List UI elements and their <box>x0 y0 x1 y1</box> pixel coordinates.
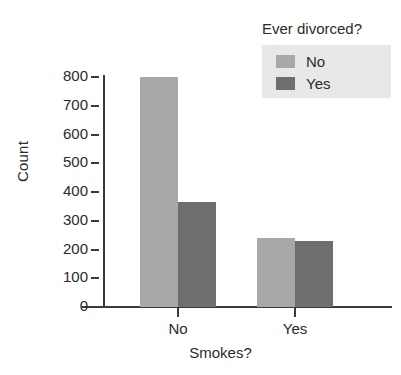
x-axis-title: Smokes? <box>0 344 401 361</box>
y-axis-tick-label: 300 <box>63 211 88 228</box>
y-axis-tick-mark <box>91 306 99 308</box>
y-axis-tick-label: 700 <box>63 96 88 113</box>
legend-label: Yes <box>306 76 330 91</box>
y-axis-tick-label: 800 <box>63 67 88 84</box>
x-axis-tick-label: No <box>138 320 218 337</box>
bar[interactable] <box>140 77 178 307</box>
legend-swatch <box>276 77 295 90</box>
y-axis-tick-label: 100 <box>63 268 88 285</box>
y-axis-tick-mark <box>91 191 99 193</box>
x-axis-tick-label: Yes <box>255 320 335 337</box>
bar[interactable] <box>178 202 216 307</box>
y-axis-tick-mark <box>91 249 99 251</box>
legend-title: Ever divorced? <box>262 20 362 37</box>
legend-box: NoYes <box>262 45 391 98</box>
legend-swatch <box>276 55 295 68</box>
y-axis-tick-mark <box>91 220 99 222</box>
y-axis-tick-mark <box>91 277 99 279</box>
bar[interactable] <box>257 238 295 307</box>
y-axis-tick-label: 600 <box>63 125 88 142</box>
y-axis-tick-label: 400 <box>63 182 88 199</box>
legend-entry[interactable]: Yes <box>276 76 330 91</box>
y-axis-tick-label: 0 <box>80 297 88 314</box>
y-axis-tick-label: 500 <box>63 153 88 170</box>
y-axis-tick-mark <box>91 105 99 107</box>
legend-entry[interactable]: No <box>276 54 325 69</box>
y-axis-tick-mark <box>91 162 99 164</box>
legend-label: No <box>306 54 325 69</box>
bar-chart-figure: Count 0100200300400500600700800 NoYes Sm… <box>0 0 401 375</box>
plot-area <box>104 77 388 307</box>
x-axis-tick-mark <box>294 308 296 317</box>
y-axis-tick-mark <box>91 134 99 136</box>
bar[interactable] <box>295 241 333 307</box>
y-axis-tick-label: 200 <box>63 240 88 257</box>
x-axis-tick-mark <box>177 308 179 317</box>
y-axis-tick-mark <box>91 76 99 78</box>
y-axis-title: Count <box>14 117 31 207</box>
